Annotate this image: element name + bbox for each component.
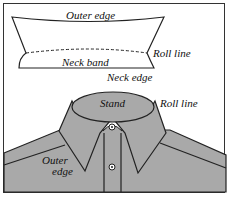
label-neck-band: Neck band: [61, 56, 109, 68]
label-outer-edge-bottom-2: edge: [52, 165, 73, 177]
label-neck-edge: Neck edge: [106, 71, 153, 83]
label-roll-line-bottom: Roll line: [159, 97, 198, 109]
label-stand: Stand: [100, 97, 126, 109]
label-outer-edge-top: Outer edge: [66, 9, 115, 21]
label-roll-line-top: Roll line: [152, 47, 191, 59]
collar-diagram: Outer edge Roll line Neck band Neck edge…: [0, 0, 230, 198]
